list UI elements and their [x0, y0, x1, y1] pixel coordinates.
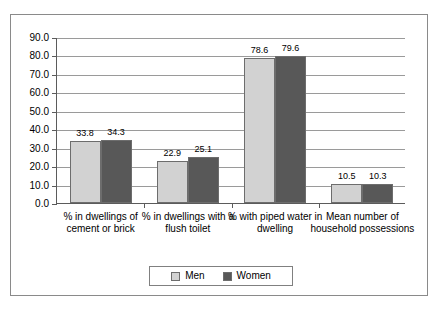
y-axis-tick-label: 90.0 — [30, 33, 49, 43]
legend-swatch-icon — [223, 272, 232, 281]
bar-group: 10.510.3Mean number of household possess… — [319, 38, 406, 203]
plot-area: 90.080.070.060.050.040.030.020.010.00.0 … — [56, 38, 405, 204]
bar-value-label: 33.8 — [76, 129, 94, 138]
bar-value-label: 25.1 — [195, 145, 213, 154]
y-axis-tick-label: 20.0 — [30, 162, 49, 172]
x-axis-category-label: Mean number of household possessions — [310, 211, 415, 235]
x-axis-separator-tick — [232, 203, 233, 208]
bar-women[interactable] — [275, 56, 306, 203]
bar-slot: 22.9 — [157, 38, 188, 203]
y-axis-tick-label: 30.0 — [30, 144, 49, 154]
bar-slot: 33.8 — [70, 38, 101, 203]
y-axis-tick-label: 80.0 — [30, 51, 49, 61]
bar-men[interactable] — [157, 161, 188, 203]
bar-women[interactable] — [362, 184, 393, 203]
bar-group-bars: 10.510.3 — [319, 38, 406, 203]
bar-group: 33.834.3% in dwellings of cement or bric… — [57, 38, 144, 203]
bar-value-label: 10.3 — [369, 172, 387, 181]
legend-swatch-icon — [171, 272, 180, 281]
bar-group: 78.679.6% with piped water in dwelling — [232, 38, 319, 203]
legend-item-men[interactable]: Men — [171, 271, 204, 281]
y-axis-tick — [52, 204, 57, 205]
bar-slot: 34.3 — [101, 38, 132, 203]
chart-frame: 90.080.070.060.050.040.030.020.010.00.0 … — [10, 14, 428, 296]
bar-group-bars: 78.679.6 — [232, 38, 319, 203]
y-axis-tick-label: 0.0 — [35, 199, 49, 209]
bar-group-bars: 33.834.3 — [57, 38, 144, 203]
x-axis-separator-tick — [144, 203, 145, 208]
bar-group: 22.925.1% in dwellings with a flush toil… — [144, 38, 231, 203]
y-axis-tick-label: 60.0 — [30, 88, 49, 98]
bar-group-bars: 22.925.1 — [144, 38, 231, 203]
bar-slot: 79.6 — [275, 38, 306, 203]
bar-value-label: 22.9 — [164, 149, 182, 158]
bar-men[interactable] — [331, 184, 362, 203]
chart-legend: MenWomen — [149, 266, 293, 286]
y-axis-tick-label: 40.0 — [30, 125, 49, 135]
bar-men[interactable] — [244, 58, 275, 203]
y-axis-tick-label: 70.0 — [30, 70, 49, 80]
bar-slot: 78.6 — [244, 38, 275, 203]
bar-men[interactable] — [70, 141, 101, 203]
bar-value-label: 10.5 — [338, 172, 356, 181]
bar-women[interactable] — [101, 140, 132, 203]
legend-label: Women — [237, 271, 271, 281]
bar-slot: 25.1 — [188, 38, 219, 203]
legend-label: Men — [185, 271, 204, 281]
y-axis-tick-label: 10.0 — [30, 181, 49, 191]
bar-slot: 10.5 — [331, 38, 362, 203]
legend-item-women[interactable]: Women — [223, 271, 271, 281]
bar-value-label: 78.6 — [251, 46, 269, 55]
x-axis-separator-tick — [319, 203, 320, 208]
bar-value-label: 34.3 — [107, 128, 125, 137]
bar-slot: 10.3 — [362, 38, 393, 203]
bar-value-label: 79.6 — [282, 44, 300, 53]
bar-women[interactable] — [188, 157, 219, 203]
y-axis-tick-label: 50.0 — [30, 107, 49, 117]
